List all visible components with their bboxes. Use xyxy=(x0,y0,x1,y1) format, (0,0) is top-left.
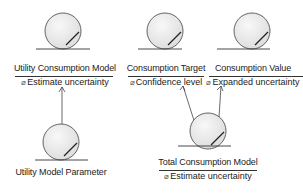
entity-label-consumption-target[interactable]: Consumption Target xyxy=(124,63,208,73)
operation-icon: ⌀ xyxy=(21,78,26,87)
operation-confidence-level[interactable]: ⌀Confidence level xyxy=(124,77,208,87)
edge-parameter-to-model xyxy=(59,87,65,125)
entity-label-utility-model-parameter[interactable]: Utility Model Parameter xyxy=(5,167,117,177)
entity-icon[interactable] xyxy=(35,124,88,160)
operation-icon: ⌀ xyxy=(130,78,135,87)
operation-estimate-uncertainty[interactable]: ⌀Estimate uncertainty xyxy=(150,171,266,181)
entity-label-utility-consumption-model[interactable]: Utility Consumption Model xyxy=(5,63,125,73)
operation-expanded-uncertainty[interactable]: ⌀Expanded uncertainty xyxy=(203,77,303,87)
operation-estimate-uncertainty[interactable]: ⌀Estimate uncertainty xyxy=(5,77,125,87)
operation-icon: ⌀ xyxy=(164,172,169,181)
entity-label-consumption-value[interactable]: Consumption Value xyxy=(203,63,303,73)
entity-icon[interactable] xyxy=(138,13,183,49)
entity-icon[interactable] xyxy=(36,13,90,49)
entity-icon[interactable] xyxy=(217,13,270,49)
operation-icon: ⌀ xyxy=(206,78,211,87)
entity-label-total-consumption-model[interactable]: Total Consumption Model xyxy=(150,157,266,167)
entity-icon[interactable] xyxy=(178,113,231,149)
